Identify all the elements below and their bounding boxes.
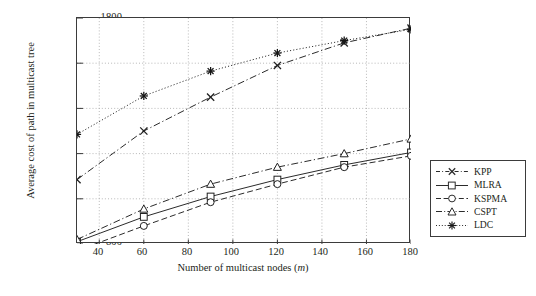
legend-item-kpp[interactable]: KPP: [435, 165, 521, 178]
x-axis-title-text: Number of multicast nodes (: [177, 262, 297, 273]
line-chart-figure: 1800 1600 1400 1200 1000 800 40 60 80 10…: [0, 0, 536, 296]
series-ldc: [77, 25, 411, 138]
legend-item-cspt[interactable]: CSPT: [435, 205, 521, 218]
plot-canvas: [77, 18, 411, 244]
legend-label: LDC: [469, 220, 493, 230]
x-tick-label: 140: [300, 247, 340, 258]
legend-label: MLRA: [469, 180, 502, 190]
kpp-line-sample: [435, 165, 469, 178]
legend-label: KSPMA: [469, 194, 507, 204]
mlra-line-sample: [435, 179, 469, 192]
y-axis-title: Average cost of path in multicast tree: [25, 13, 36, 229]
x-axis-title-variable: m: [298, 262, 306, 273]
legend-item-mlra[interactable]: MLRA: [435, 178, 521, 191]
x-tick-label: 120: [256, 247, 296, 258]
x-axis-title: Number of multicast nodes (m): [76, 262, 410, 273]
series-cspt: [77, 135, 411, 243]
series-kpp: [77, 25, 411, 184]
cspt-line-sample: [435, 205, 469, 218]
legend-label: CSPT: [469, 207, 497, 217]
x-axis-title-close: ): [305, 262, 309, 273]
series-mlra: [77, 149, 411, 244]
kspma-line-sample: [435, 192, 469, 205]
x-tick-label: 180: [390, 247, 430, 258]
series-kspma: [77, 152, 411, 244]
plot-area: [76, 17, 410, 243]
legend-item-ldc[interactable]: LDC: [435, 219, 521, 232]
x-tick-label: 40: [78, 247, 118, 258]
legend-item-kspma[interactable]: KSPMA: [435, 192, 521, 205]
x-tick-label: 160: [345, 247, 385, 258]
legend: KPP MLRA KSPMA: [430, 160, 526, 237]
grid-lines: [77, 18, 411, 244]
x-tick-label: 100: [211, 247, 251, 258]
x-tick-label: 60: [122, 247, 162, 258]
axis-ticks: [77, 18, 411, 244]
legend-label: KPP: [469, 167, 492, 177]
ldc-line-sample: [435, 219, 469, 232]
x-tick-label: 80: [167, 247, 207, 258]
